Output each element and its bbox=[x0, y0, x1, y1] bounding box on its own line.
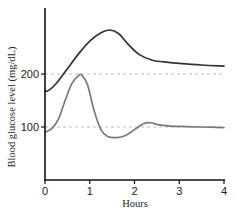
x-tick-label: 3 bbox=[176, 185, 182, 197]
x-ticks: 01234 bbox=[42, 180, 227, 197]
x-tick-label: 0 bbox=[42, 185, 48, 197]
x-tick-label: 1 bbox=[87, 185, 93, 197]
series-layer bbox=[45, 30, 224, 138]
x-axis-title: Hours bbox=[122, 198, 148, 209]
x-tick-label: 2 bbox=[131, 185, 137, 197]
y-tick-label: 200 bbox=[21, 68, 39, 80]
x-tick-label: 4 bbox=[221, 185, 227, 197]
glucose-line-chart: 01234 100200 Hours Blood glucose level (… bbox=[0, 0, 237, 213]
y-ticks: 100200 bbox=[21, 68, 45, 133]
lower-glucose-curve bbox=[45, 74, 224, 138]
y-axis-title: Blood glucose level (mg/dL) bbox=[6, 46, 18, 168]
y-tick-label: 100 bbox=[21, 121, 39, 133]
